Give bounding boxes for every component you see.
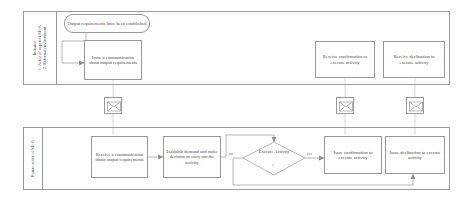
node-issue-communication-label: Issue a communication about output requi… <box>87 55 139 65</box>
envelope-icon <box>105 98 123 115</box>
edge-label-yes: yes <box>307 152 312 156</box>
node-decision-label: Execute Activity <box>252 149 296 154</box>
node-receive-communication[interactable]: Receive a communication about output req… <box>91 136 148 178</box>
envelope-icon <box>407 98 425 115</box>
message-envelope-2[interactable] <box>336 97 354 114</box>
message-envelope-3[interactable] <box>406 97 424 114</box>
lane-initiator-label-text: Initiator: 1. Actor of superior SE-A 2. … <box>32 25 47 70</box>
node-issue-declination-label: Issue declination to execute activity <box>388 150 442 160</box>
message-envelope-1[interactable] <box>104 97 122 114</box>
edge-label-no: no <box>229 152 233 156</box>
lane-initiator-label: Initiator: 1. Actor of superior SE-A 2. … <box>23 11 57 85</box>
envelope-icon <box>337 98 355 115</box>
diagram-canvas: Initiator: 1. Actor of superior SE-A 2. … <box>0 0 466 200</box>
node-start-event[interactable]: Output requirements have been establishe… <box>64 14 150 33</box>
node-receive-confirmation-label: Receive confirmation to execute activity <box>318 54 372 64</box>
node-establish-demand[interactable]: Establish demand and make decision to ca… <box>163 136 221 178</box>
node-decision-question-mark: ? <box>272 163 274 168</box>
node-issue-declination[interactable]: Issue declination to execute activity <box>385 136 445 174</box>
node-issue-confirmation[interactable]: Issue confirmation to execute activity <box>324 136 382 174</box>
node-receive-communication-label: Receive a communication about output req… <box>94 152 145 162</box>
node-receive-declination-label: Receive declination to execute activity <box>386 54 442 64</box>
node-receive-confirmation[interactable]: Receive confirmation to execute activity <box>315 41 375 78</box>
node-start-event-label: Output requirements have been establishe… <box>67 21 147 26</box>
node-issue-confirmation-label: Issue confirmation to execute activity <box>327 150 379 160</box>
lane-future-actor-label: Future actor of SE-A <box>23 127 43 190</box>
node-receive-declination[interactable]: Receive declination to execute activity <box>383 41 445 78</box>
lane-future-actor-label-text: Future actor of SE-A <box>30 140 35 177</box>
node-issue-communication[interactable]: Issue a communication about output requi… <box>84 40 142 80</box>
node-decision-text: Execute Activity <box>259 149 290 154</box>
node-establish-demand-label: Establish demand and make decision to ca… <box>166 149 218 164</box>
